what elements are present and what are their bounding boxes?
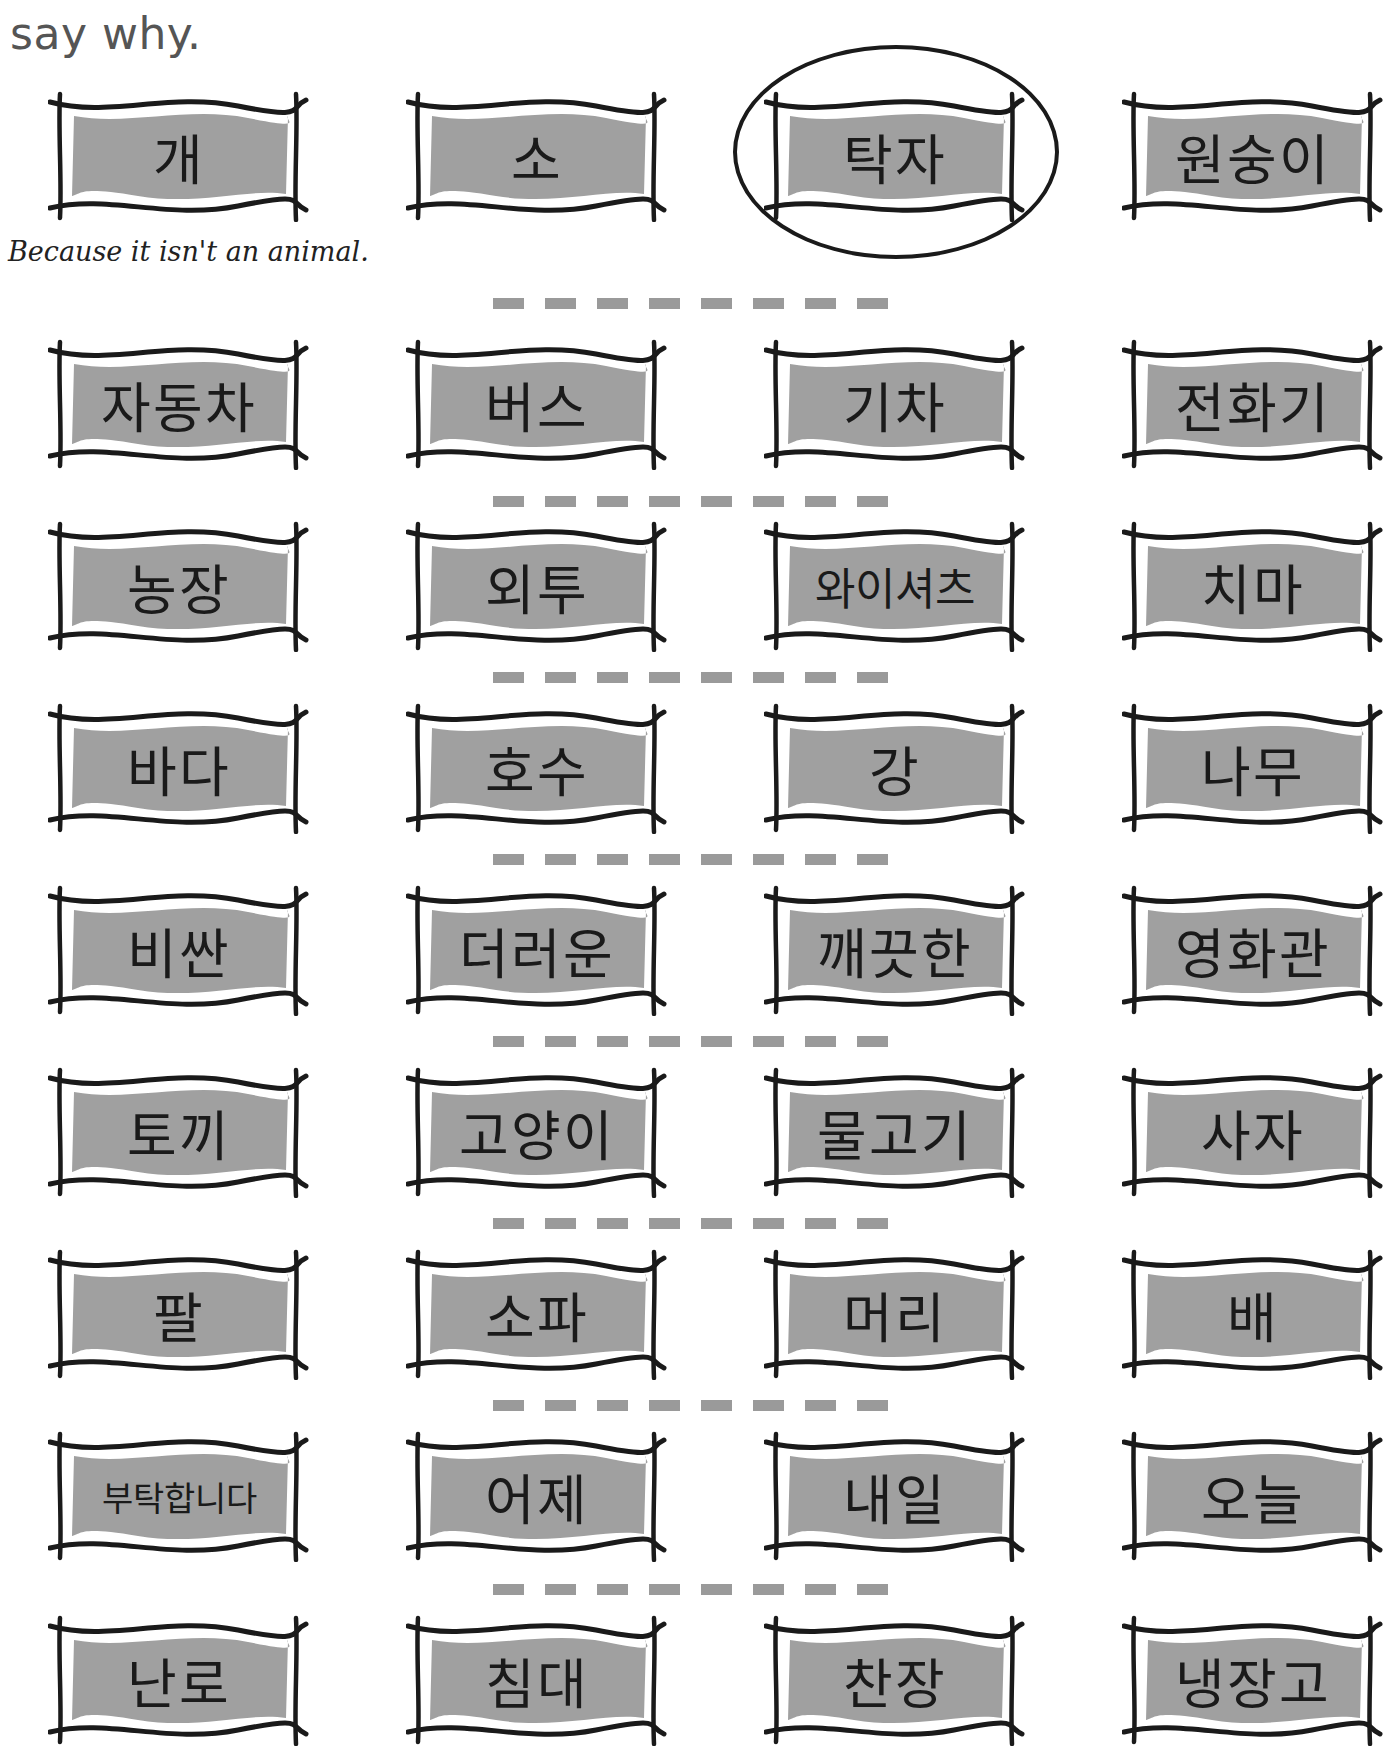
- word-card[interactable]: 토끼: [48, 1066, 310, 1198]
- word-card[interactable]: 깨끗한: [764, 884, 1026, 1016]
- word-card-label: 팔: [68, 1268, 290, 1360]
- word-card[interactable]: 내일: [764, 1430, 1026, 1562]
- word-card-label: 난로: [68, 1634, 290, 1726]
- word-card[interactable]: 치마: [1122, 520, 1384, 652]
- dash-segment: [649, 298, 680, 309]
- dash-segment: [857, 1400, 888, 1411]
- dash-segment: [753, 1400, 784, 1411]
- word-card-label: 오늘: [1142, 1450, 1364, 1542]
- word-card-label: 농장: [68, 540, 290, 632]
- dash-segment: [597, 854, 628, 865]
- word-card-label: 원숭이: [1142, 110, 1364, 202]
- dash-segment: [597, 1036, 628, 1047]
- word-card[interactable]: 오늘: [1122, 1430, 1384, 1562]
- word-card[interactable]: 소: [406, 90, 668, 222]
- word-card-label: 부탁합니다: [68, 1450, 290, 1542]
- word-card-label: 깨끗한: [784, 904, 1006, 996]
- word-card-label: 내일: [784, 1450, 1006, 1542]
- word-card-label: 호수: [426, 722, 648, 814]
- answer-blank-line: [493, 496, 893, 507]
- word-card[interactable]: 머리: [764, 1248, 1026, 1380]
- word-card-label: 와이셔츠: [784, 540, 1006, 632]
- dash-segment: [545, 1218, 576, 1229]
- word-card[interactable]: 영화관: [1122, 884, 1384, 1016]
- dash-segment: [493, 298, 524, 309]
- word-card[interactable]: 나무: [1122, 702, 1384, 834]
- word-card[interactable]: 농장: [48, 520, 310, 652]
- dash-segment: [493, 1400, 524, 1411]
- dash-segment: [597, 672, 628, 683]
- word-card-label: 찬장: [784, 1634, 1006, 1726]
- word-card[interactable]: 전화기: [1122, 338, 1384, 470]
- dash-segment: [857, 854, 888, 865]
- word-card-label: 머리: [784, 1268, 1006, 1360]
- dash-segment: [701, 854, 732, 865]
- word-card-label: 비싼: [68, 904, 290, 996]
- dash-segment: [649, 1218, 680, 1229]
- dash-segment: [649, 854, 680, 865]
- word-card[interactable]: 자동차: [48, 338, 310, 470]
- word-card-label: 소파: [426, 1268, 648, 1360]
- word-card[interactable]: 어제: [406, 1430, 668, 1562]
- dash-segment: [805, 298, 836, 309]
- dash-segment: [753, 672, 784, 683]
- dash-segment: [649, 1584, 680, 1595]
- word-card[interactable]: 찬장: [764, 1614, 1026, 1746]
- word-card-label: 토끼: [68, 1086, 290, 1178]
- word-card[interactable]: 호수: [406, 702, 668, 834]
- dash-segment: [493, 496, 524, 507]
- dash-segment: [857, 672, 888, 683]
- instruction-text: say why.: [10, 8, 202, 59]
- dash-segment: [805, 672, 836, 683]
- dash-segment: [701, 1218, 732, 1229]
- word-card[interactable]: 외투: [406, 520, 668, 652]
- dash-segment: [753, 1218, 784, 1229]
- answer-blank-line: [493, 1036, 893, 1047]
- word-card[interactable]: 개: [48, 90, 310, 222]
- answer-blank-line: [493, 1584, 893, 1595]
- word-card[interactable]: 사자: [1122, 1066, 1384, 1198]
- word-card[interactable]: 팔: [48, 1248, 310, 1380]
- dash-segment: [545, 298, 576, 309]
- word-card[interactable]: 비싼: [48, 884, 310, 1016]
- dash-segment: [493, 854, 524, 865]
- dash-segment: [753, 854, 784, 865]
- word-card-label: 영화관: [1142, 904, 1364, 996]
- word-card[interactable]: 탁자: [764, 90, 1026, 222]
- dash-segment: [701, 1584, 732, 1595]
- word-card-label: 배: [1142, 1268, 1364, 1360]
- word-card[interactable]: 침대: [406, 1614, 668, 1746]
- dash-segment: [545, 1036, 576, 1047]
- word-card-label: 어제: [426, 1450, 648, 1542]
- word-card[interactable]: 강: [764, 702, 1026, 834]
- dash-segment: [597, 496, 628, 507]
- answer-blank-line: [493, 298, 893, 309]
- word-card[interactable]: 원숭이: [1122, 90, 1384, 222]
- word-card[interactable]: 와이셔츠: [764, 520, 1026, 652]
- dash-segment: [545, 672, 576, 683]
- word-card-label: 나무: [1142, 722, 1364, 814]
- word-card-label: 기차: [784, 358, 1006, 450]
- dash-segment: [649, 672, 680, 683]
- dash-segment: [805, 1584, 836, 1595]
- word-card[interactable]: 고양이: [406, 1066, 668, 1198]
- word-card-label: 고양이: [426, 1086, 648, 1178]
- dash-segment: [753, 1584, 784, 1595]
- word-card[interactable]: 물고기: [764, 1066, 1026, 1198]
- word-card-label: 탁자: [784, 110, 1006, 202]
- word-card[interactable]: 냉장고: [1122, 1614, 1384, 1746]
- word-card[interactable]: 난로: [48, 1614, 310, 1746]
- word-card[interactable]: 부탁합니다: [48, 1430, 310, 1562]
- word-card[interactable]: 바다: [48, 702, 310, 834]
- word-card[interactable]: 소파: [406, 1248, 668, 1380]
- word-card[interactable]: 배: [1122, 1248, 1384, 1380]
- dash-segment: [701, 298, 732, 309]
- word-card[interactable]: 버스: [406, 338, 668, 470]
- dash-segment: [649, 496, 680, 507]
- dash-segment: [545, 496, 576, 507]
- word-card[interactable]: 기차: [764, 338, 1026, 470]
- dash-segment: [597, 1584, 628, 1595]
- word-card-label: 침대: [426, 1634, 648, 1726]
- word-card[interactable]: 더러운: [406, 884, 668, 1016]
- dash-segment: [545, 854, 576, 865]
